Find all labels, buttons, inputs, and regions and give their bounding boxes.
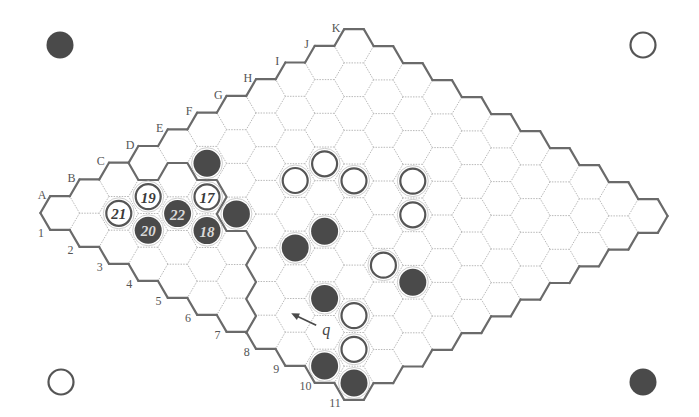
col-label-5: 5	[156, 294, 162, 308]
arrow-icon	[296, 316, 316, 326]
move-number: 17	[200, 190, 216, 206]
move-number: 21	[110, 206, 126, 222]
border-segment	[599, 249, 609, 266]
stone-black-a10	[309, 351, 340, 382]
corner-marker-bottom-right-black-icon	[630, 369, 657, 396]
row-label-f: F	[186, 104, 193, 118]
corner-marker-bottom-left-white-icon	[49, 370, 74, 395]
move-number: 19	[141, 190, 157, 206]
col-label-8: 8	[244, 345, 250, 359]
stone-black-e9	[397, 267, 428, 298]
border-segment	[452, 333, 462, 350]
border-segment	[511, 300, 521, 317]
border-segment	[628, 233, 638, 250]
stone-black-b3: 20	[133, 215, 164, 246]
row-label-d: D	[126, 138, 135, 152]
hex-board: ABCDEFGHIJK1234567891011 191721222018 q	[0, 0, 699, 417]
move-number: 18	[200, 224, 216, 240]
row-label-i: I	[275, 54, 279, 68]
stone-black-e2	[192, 148, 223, 179]
stone-white-g4	[309, 148, 340, 179]
col-label-3: 3	[97, 260, 103, 274]
marked-point: q	[291, 313, 330, 339]
stone-black-c4: 18	[192, 215, 223, 246]
row-label-c: C	[97, 154, 105, 168]
stone-white-g5	[339, 165, 370, 196]
border-segment	[570, 148, 580, 165]
border-segment	[658, 216, 668, 233]
corner-marker-top-left-black-icon	[47, 32, 74, 59]
col-label-2: 2	[67, 243, 73, 257]
move-number: 22	[169, 207, 186, 223]
row-label-h: H	[243, 71, 252, 85]
border-segment	[658, 199, 668, 216]
marked-point-label: q	[322, 321, 330, 339]
row-label-b: B	[67, 171, 75, 185]
stone-white-e8	[368, 250, 399, 281]
border-segment	[481, 97, 491, 114]
col-label-4: 4	[126, 277, 132, 291]
stone-white-b10	[339, 334, 370, 365]
stone-black-d4	[221, 198, 252, 229]
row-label-k: K	[332, 21, 341, 35]
stone-white-c9	[339, 300, 370, 331]
border-segment	[599, 165, 609, 182]
border-segment	[511, 114, 521, 131]
stones: 191721222018	[103, 148, 428, 399]
stone-white-c2: 19	[133, 181, 164, 212]
border-segment	[364, 29, 374, 46]
col-label-6: 6	[185, 311, 191, 325]
border-segment	[628, 182, 638, 199]
border-segment	[570, 266, 580, 283]
move-number: 20	[140, 223, 157, 239]
stone-white-g7	[397, 199, 428, 230]
stone-white-h6	[397, 166, 428, 197]
border-segment	[423, 350, 433, 367]
border-segment	[393, 366, 403, 383]
border-segment	[540, 283, 550, 300]
col-label-10: 10	[300, 379, 312, 393]
border-segment	[452, 80, 462, 97]
corner-marker-top-right-white-icon	[631, 33, 656, 58]
stone-white-d3: 17	[192, 181, 223, 212]
col-label-11: 11	[329, 396, 341, 410]
col-label-1: 1	[38, 226, 44, 240]
border-segment	[481, 316, 491, 333]
border-segment	[540, 131, 550, 148]
hex-grid	[70, 46, 638, 383]
stone-white-b2: 21	[103, 198, 134, 229]
stone-black-c3: 22	[162, 198, 193, 229]
stone-black-c8	[309, 283, 340, 314]
col-label-7: 7	[214, 328, 220, 342]
row-label-e: E	[156, 121, 163, 135]
stone-black-d6	[280, 232, 311, 263]
row-label-g: G	[214, 88, 223, 102]
stone-black-e6	[309, 216, 340, 247]
border-segment	[393, 46, 403, 63]
stone-black-a11	[339, 368, 370, 399]
stone-white-f4	[280, 165, 311, 196]
col-label-9: 9	[273, 362, 279, 376]
row-label-j: J	[304, 37, 309, 51]
border-segment	[423, 63, 433, 80]
row-label-a: A	[38, 188, 47, 202]
